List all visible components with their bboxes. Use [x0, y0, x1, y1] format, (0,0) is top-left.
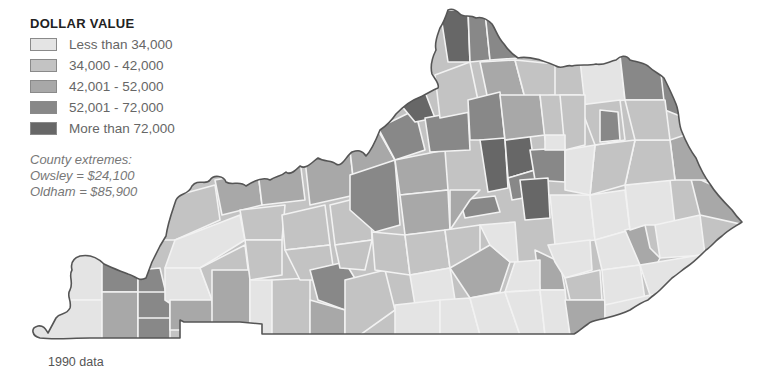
county: [372, 232, 410, 275]
county: [212, 270, 250, 330]
county: [580, 55, 625, 105]
county: [102, 255, 138, 292]
legend-swatch: [30, 122, 57, 135]
county: [468, 92, 505, 140]
county: [600, 110, 620, 142]
extremes-low: Owsley = $24,100: [30, 168, 137, 184]
legend-item: 52,001 - 72,000: [30, 97, 175, 118]
county: [545, 135, 565, 150]
data-year-note: 1990 data: [48, 355, 104, 369]
legend-label: Less than 34,000: [69, 37, 173, 52]
county: [305, 150, 355, 205]
legend-label: 34,000 - 42,000: [69, 58, 164, 73]
county: [565, 300, 605, 335]
county: [240, 205, 285, 240]
legend-swatch: [30, 80, 57, 93]
county: [102, 292, 138, 345]
county: [565, 145, 595, 195]
county: [250, 280, 272, 335]
county: [500, 95, 545, 140]
legend: DOLLAR VALUE Less than 34,000 34,000 - 4…: [30, 16, 175, 139]
county: [540, 290, 570, 335]
legend-label: 52,001 - 72,000: [69, 100, 164, 115]
extremes-high: Oldham = $85,900: [30, 184, 137, 200]
county: [395, 300, 440, 335]
county: [550, 195, 595, 245]
extremes-heading: County extremes:: [30, 152, 137, 168]
county: [170, 300, 215, 330]
legend-label: More than 72,000: [69, 121, 175, 136]
legend-item: Less than 34,000: [30, 34, 175, 55]
legend-title: DOLLAR VALUE: [30, 16, 175, 31]
county: [520, 178, 550, 220]
county: [405, 230, 450, 275]
legend-swatch: [30, 59, 57, 72]
county: [245, 240, 282, 280]
legend-swatch: [30, 38, 57, 51]
county: [485, 12, 520, 60]
legend-swatch: [30, 101, 57, 114]
county: [400, 190, 450, 235]
county: [272, 278, 310, 335]
county-extremes: County extremes: Owsley = $24,100 Oldham…: [30, 152, 137, 200]
county: [670, 130, 710, 180]
legend-item: 34,000 - 42,000: [30, 55, 175, 76]
county: [258, 160, 305, 205]
legend-item: 42,001 - 52,000: [30, 76, 175, 97]
legend-item: More than 72,000: [30, 118, 175, 139]
legend-label: 42,001 - 52,000: [69, 79, 164, 94]
county: [30, 250, 102, 300]
county: [335, 240, 372, 270]
county: [530, 148, 565, 182]
county: [620, 55, 665, 100]
